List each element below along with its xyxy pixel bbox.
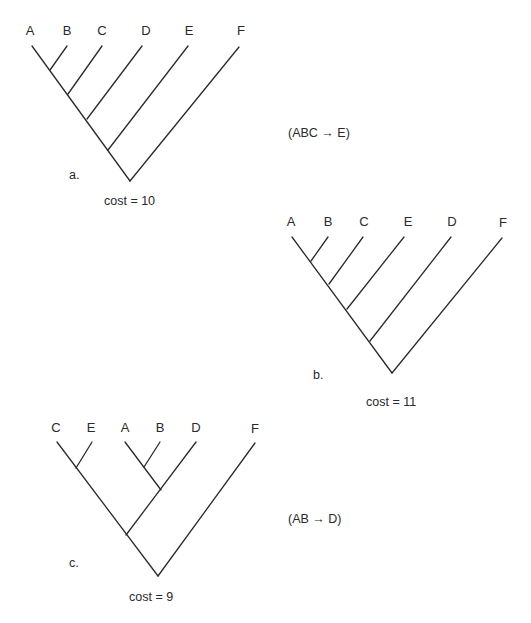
tree-b-branches <box>292 237 502 373</box>
taxon-label: E <box>404 215 413 228</box>
panel-label: a. <box>69 169 79 182</box>
panel-label: b. <box>313 369 323 382</box>
taxon-label: B <box>156 421 165 434</box>
taxon-label: B <box>324 215 333 228</box>
panel-label: c. <box>69 557 79 570</box>
taxon-label: D <box>141 24 150 37</box>
cost-label: cost = 9 <box>129 591 173 604</box>
taxon-label: E <box>87 421 96 434</box>
annotation-label: (AB → D) <box>288 513 341 526</box>
taxon-label: C <box>97 24 106 37</box>
taxon-label: C <box>359 215 368 228</box>
taxon-label: E <box>185 24 194 37</box>
cladogram-lines <box>0 0 531 623</box>
taxon-label: F <box>237 24 245 37</box>
taxon-label: D <box>191 421 200 434</box>
taxon-label: F <box>499 216 507 229</box>
cost-label: cost = 11 <box>366 396 416 409</box>
taxon-label: F <box>251 422 259 435</box>
tree-a-branches <box>32 46 239 181</box>
taxon-label: C <box>51 421 60 434</box>
taxon-label: A <box>121 421 130 434</box>
taxon-label: A <box>26 24 35 37</box>
taxon-label: A <box>287 215 296 228</box>
cost-label: cost = 10 <box>104 195 155 208</box>
taxon-label: D <box>447 215 456 228</box>
annotation-label: (ABC → E) <box>288 127 350 140</box>
taxon-label: B <box>63 24 72 37</box>
tree-c-branches <box>57 442 255 576</box>
